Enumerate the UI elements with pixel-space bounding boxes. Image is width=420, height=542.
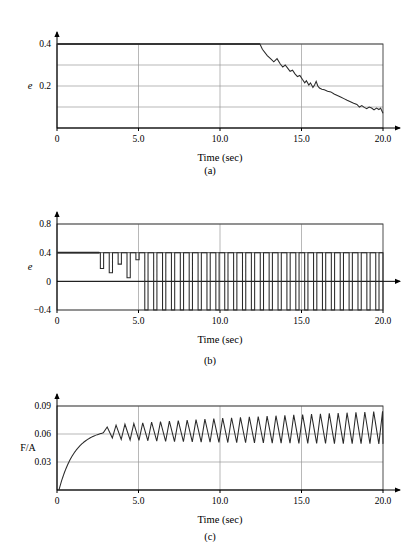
x-axis-arrowhead (395, 279, 401, 284)
xticklabel-2: 10.0 (212, 316, 229, 326)
yticklabel-1: 0.2 (39, 81, 51, 91)
yticklabel-0: 0.03 (34, 457, 51, 467)
xticklabel-2: 10.0 (212, 496, 229, 506)
yticklabel-3: 0.8 (39, 219, 51, 229)
xticklabel-4: 20.0 (375, 316, 392, 326)
panel-a-svg: 05.010.015.020.00.20.4 e Time (sec) (a) (0, 0, 420, 180)
xticklabel-3: 15.0 (293, 134, 310, 144)
yticklabel-2: 0.09 (34, 401, 51, 411)
x-axis-arrowhead (395, 487, 401, 492)
y-axis-arrowhead (54, 211, 59, 217)
xticklabel-0: 0 (55, 496, 60, 506)
xticklabel-1: 5.0 (133, 496, 145, 506)
xticklabel-3: 15.0 (293, 496, 310, 506)
xticklabel-4: 20.0 (375, 134, 392, 144)
xticklabel-1: 5.0 (133, 316, 145, 326)
panel-a-axes (54, 31, 401, 131)
panel-a-grid (57, 44, 383, 128)
xticklabel-2: 10.0 (212, 134, 229, 144)
panel-c-trace (59, 411, 383, 490)
yticklabel-3: 0.4 (39, 39, 51, 49)
panel-c-grid (57, 406, 383, 490)
panel-b-svg: 05.010.015.020.0−0.400.40.8 e Time (sec)… (0, 180, 420, 370)
xticklabel-0: 0 (55, 134, 60, 144)
yticklabel-1: 0.06 (34, 429, 51, 439)
panel-a-x-axis-label: Time (sec) (198, 152, 243, 164)
panel-c-force-amplitude: 05.010.015.020.00.030.060.09 F/A Time (s… (0, 362, 420, 542)
yticklabel-2: 0.4 (39, 248, 51, 258)
yticklabel-0: −0.4 (34, 305, 51, 315)
x-axis-arrowhead (395, 125, 401, 130)
xticklabel-0: 0 (55, 316, 60, 326)
panel-c-svg: 05.010.015.020.00.030.060.09 F/A Time (s… (0, 362, 420, 542)
panel-a-y-axis-label: e (28, 80, 33, 91)
xticklabel-3: 15.0 (293, 316, 310, 326)
panel-c-axes (54, 393, 401, 493)
panel-b-y-axis-label: e (28, 261, 33, 272)
panel-c-x-axis-label: Time (sec) (198, 514, 243, 526)
figure-three-panel-time-series: 05.010.015.020.00.20.4 e Time (sec) (a) … (0, 0, 420, 542)
panel-a-caption: (a) (204, 165, 216, 177)
y-axis-arrowhead (54, 31, 59, 37)
panel-a-error-signal: 05.010.015.020.00.20.4 e Time (sec) (a) (0, 0, 420, 180)
panel-b-x-axis-label: Time (sec) (198, 334, 243, 346)
panel-b-relay-error-signal: 05.010.015.020.0−0.400.40.8 e Time (sec)… (0, 180, 420, 370)
yticklabel-1: 0 (46, 277, 51, 287)
data-trace (59, 411, 383, 490)
y-axis-arrowhead (54, 393, 59, 399)
xticklabel-4: 20.0 (375, 496, 392, 506)
xticklabel-1: 5.0 (133, 134, 145, 144)
panel-c-y-axis-label: F/A (20, 442, 36, 453)
panel-c-caption: (c) (204, 531, 216, 542)
